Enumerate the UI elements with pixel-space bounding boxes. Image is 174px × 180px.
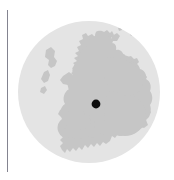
location-marker-dot[interactable] — [92, 100, 101, 109]
scotland-map-svg — [0, 0, 174, 180]
locator-map-figure: Scotland — [0, 0, 174, 180]
